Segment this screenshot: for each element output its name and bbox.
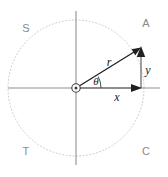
radius-label-r: r: [107, 55, 112, 69]
y-component-label: y: [144, 63, 151, 77]
diagram-canvas: S A T C r y x θ: [0, 0, 168, 177]
origin-marker-dot: [75, 87, 78, 90]
quadrant-label-lower-right: C: [142, 145, 150, 157]
quadrant-label-upper-right: A: [142, 17, 150, 29]
unit-circle-diagram: S A T C r y x θ: [0, 0, 168, 177]
x-component-arrowhead: [131, 84, 142, 92]
quadrant-label-lower-left: T: [22, 145, 29, 157]
angle-label-theta: θ: [93, 75, 99, 87]
x-component-label: x: [113, 90, 120, 104]
quadrant-label-upper-left: S: [22, 22, 30, 34]
